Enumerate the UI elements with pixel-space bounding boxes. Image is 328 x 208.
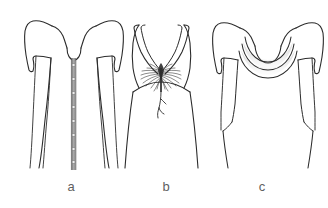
fashion-flats-illustration [0, 0, 328, 208]
button-placket [72, 58, 76, 170]
figure-label-a: a [61, 180, 81, 194]
figure-label-c: c [252, 180, 272, 194]
illustration-background [0, 0, 328, 208]
figure-label-b: b [156, 180, 176, 194]
